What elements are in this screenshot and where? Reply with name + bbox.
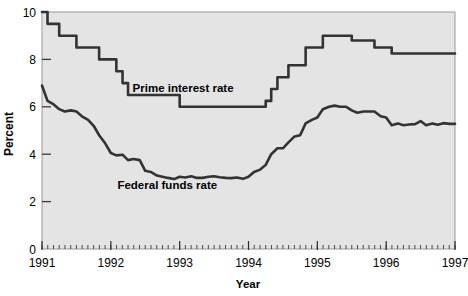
series-label: Federal funds rate [117, 179, 217, 191]
x-axis-title: Year [236, 278, 261, 290]
y-tick-label: 8 [29, 53, 36, 67]
plot-area-background [42, 12, 455, 249]
series-label: Prime interest rate [133, 82, 234, 94]
y-tick-label: 6 [29, 100, 36, 114]
y-tick-label: 4 [29, 148, 36, 162]
x-axis-tick-labels: 1991199219931994199519961997 [29, 256, 468, 270]
y-tick-label: 2 [29, 195, 36, 209]
chart-figure: 0246810 1991199219931994199519961997 Pri… [0, 0, 468, 296]
x-tick-label: 1994 [235, 256, 262, 270]
x-tick-label: 1996 [373, 256, 400, 270]
x-tick-label: 1997 [442, 256, 468, 270]
x-tick-label: 1993 [166, 256, 193, 270]
x-tick-label: 1992 [97, 256, 124, 270]
y-tick-label: 0 [29, 243, 36, 257]
x-tick-label: 1991 [29, 256, 56, 270]
y-axis-tick-labels: 0246810 [23, 6, 37, 257]
y-tick-label: 10 [23, 6, 37, 20]
y-axis-title: Percent [2, 112, 16, 156]
interest-rates-line-chart: 0246810 1991199219931994199519961997 Pri… [0, 0, 468, 296]
x-tick-label: 1995 [304, 256, 331, 270]
